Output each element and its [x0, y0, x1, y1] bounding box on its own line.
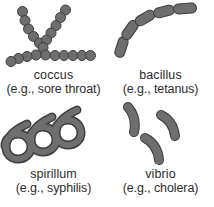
bacillus-caption: bacillus (e.g., tetanus) — [107, 68, 214, 96]
figure-item-vibrio: vibrio (e.g., cholera) — [107, 101, 214, 195]
figure-item-spirillum: spirillum (e.g., syphilis) — [0, 101, 107, 195]
bacteria-shapes-figure: coccus (e.g., sore throat) — [0, 0, 214, 207]
spirillum-helix-icon — [0, 101, 107, 167]
coccus-chain-icon — [0, 2, 107, 68]
vibrio-comma-icon — [107, 101, 214, 167]
spirillum-caption: spirillum (e.g., syphilis) — [0, 167, 107, 195]
vibrio-label: vibrio — [107, 167, 214, 181]
spirillum-example: (e.g., syphilis) — [0, 181, 107, 195]
bacillus-example: (e.g., tetanus) — [107, 82, 214, 96]
figure-item-bacillus: bacillus (e.g., tetanus) — [107, 2, 214, 96]
figure-item-coccus: coccus (e.g., sore throat) — [0, 2, 107, 96]
spirillum-label: spirillum — [0, 167, 107, 181]
vibrio-example: (e.g., cholera) — [107, 181, 214, 195]
coccus-example: (e.g., sore throat) — [0, 82, 107, 96]
bacillus-label: bacillus — [107, 68, 214, 82]
coccus-caption: coccus (e.g., sore throat) — [0, 68, 107, 96]
coccus-label: coccus — [0, 68, 107, 82]
vibrio-caption: vibrio (e.g., cholera) — [107, 167, 214, 195]
bacillus-rod-chain-icon — [107, 2, 214, 68]
